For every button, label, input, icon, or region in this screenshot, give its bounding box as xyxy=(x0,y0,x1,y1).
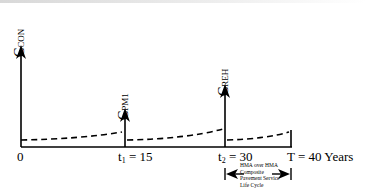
t1-label: t1 = 15 xyxy=(118,149,152,165)
label-main: C xyxy=(216,87,231,96)
end-label: T = 40 Years xyxy=(287,149,353,165)
construction-cost-label: CCON xyxy=(12,29,28,57)
label-main: C xyxy=(12,48,27,57)
annotation-line: Pavement Service xyxy=(240,175,280,182)
condition-curve-2 xyxy=(127,129,223,140)
rehabilitation-cost-label: CREH xyxy=(216,69,232,96)
annotation-line: HMA over HMA xyxy=(240,162,280,169)
label-main: C xyxy=(116,111,131,120)
service-life-annotation: HMA over HMA Composite Pavement Service … xyxy=(240,162,280,188)
label-sub: REH xyxy=(220,69,230,87)
label-sub: CON xyxy=(16,29,26,48)
annotation-line: Life Cycle xyxy=(240,182,280,189)
condition-curve-3 xyxy=(227,132,289,140)
label-sub: PM1 xyxy=(120,93,130,111)
t1-value: = 15 xyxy=(126,149,153,164)
origin-label: 0 xyxy=(17,149,24,165)
maintenance-cost-label: CPM1 xyxy=(116,93,132,120)
condition-curve-1 xyxy=(21,132,122,140)
